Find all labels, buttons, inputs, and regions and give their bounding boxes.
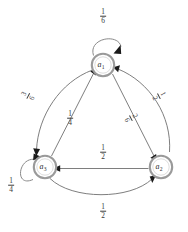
edge-label-a3-to-a2-outer: 1 2 bbox=[100, 203, 106, 220]
edge-label-a3-to-a2-numerator: 1 bbox=[100, 203, 106, 211]
edge-label-a1-self: 1 6 bbox=[100, 8, 106, 25]
node-a2[interactable]: a2 bbox=[150, 156, 172, 178]
edge-label-a3-self: 1 4 bbox=[8, 177, 14, 194]
edge-label-a2-to-a3-numerator: 1 bbox=[100, 144, 106, 152]
edge-label-a3-self-numerator: 1 bbox=[8, 177, 14, 185]
state-diagram: a1 a3 a2 1 6 1 4 3 bbox=[0, 0, 188, 232]
edge-a2-to-a1-outer bbox=[118, 69, 170, 152]
arrowhead-a1-self bbox=[114, 45, 122, 54]
node-a3[interactable]: a3 bbox=[34, 156, 56, 178]
edge-label-a2-to-a3-denominator: 2 bbox=[100, 153, 106, 160]
edge-label-a3-self-denominator: 4 bbox=[8, 186, 14, 193]
graph-canvas: a1 a3 a2 bbox=[0, 0, 188, 232]
edge-a3-to-a2-outer bbox=[50, 179, 152, 195]
edge-label-a3-to-a1-denominator: 4 bbox=[67, 119, 73, 126]
edge-label-a3-to-a1-chord: 1 4 bbox=[67, 110, 73, 127]
edge-label-a3-to-a2-denominator: 2 bbox=[100, 212, 106, 219]
edge-label-a2-to-a3-chord: 1 2 bbox=[100, 144, 106, 161]
edge-a1-to-a3-outer bbox=[37, 70, 93, 150]
node-a3-subscript: 3 bbox=[44, 166, 47, 172]
node-a1-subscript: 1 bbox=[102, 64, 105, 70]
edge-label-a1-self-denominator: 6 bbox=[100, 17, 106, 24]
edge-label-a1-self-numerator: 1 bbox=[100, 8, 106, 16]
node-a2-subscript: 2 bbox=[160, 166, 163, 172]
edge-label-a3-to-a1-numerator: 1 bbox=[67, 110, 73, 118]
node-a1[interactable]: a1 bbox=[92, 54, 114, 76]
